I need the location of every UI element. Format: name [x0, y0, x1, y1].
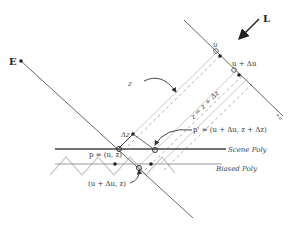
eye-ray [21, 61, 193, 218]
p-prime-label: p' = (u + Δu, z + Δz) [193, 126, 267, 134]
axis-u-label: +u [274, 111, 283, 120]
light-direction-arrow [240, 19, 259, 38]
delta-z-label: Δz [120, 131, 130, 139]
zigzag-depth-samples [50, 157, 175, 175]
biased-point-arrow [130, 170, 139, 183]
light-label: L [263, 13, 270, 24]
biased-dot-right [149, 162, 153, 166]
biased-poly-label: Biased Poly [215, 165, 258, 173]
z-prime-label: z = z + Δz [188, 89, 221, 122]
perp-segment [133, 134, 155, 150]
z-arrow [144, 78, 176, 92]
z-label: z [127, 80, 132, 88]
u-sample-dot [218, 54, 222, 58]
shadow-bias-diagram: E L u u + Δu +u z z = z + Δz Δz p = (u, … [0, 0, 297, 227]
u-du-sample-dot [237, 73, 241, 77]
light-beam-edge-2 [137, 72, 235, 168]
scene-poly-label: Scene Poly [228, 146, 268, 154]
biased-point-label: (u + Δu, z) [88, 180, 126, 188]
eye-point [19, 59, 23, 63]
biased-dot-left [113, 162, 117, 166]
u-label: u [213, 41, 218, 49]
p-label: p = (u, z) [89, 151, 122, 159]
light-beam-dashed-2 [145, 76, 242, 170]
eye-label: E [9, 56, 17, 67]
u-du-label: u + Δu [232, 60, 257, 68]
